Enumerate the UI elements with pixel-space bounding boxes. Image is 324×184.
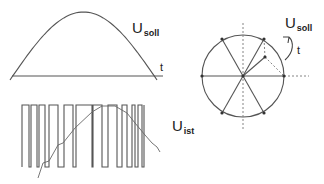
time-axis-label: t — [160, 62, 163, 73]
rotation-arrow-icon — [283, 37, 292, 60]
ist-plot — [22, 105, 160, 178]
label-sub: ist — [184, 126, 195, 136]
diagram-canvas — [0, 0, 324, 184]
label-main: U — [172, 117, 183, 134]
soll-label-top: Usoll — [132, 20, 159, 38]
soll-label-phasor: Usoll — [285, 15, 312, 33]
ist-label: Uist — [172, 118, 194, 136]
space-vector-diagram — [200, 23, 309, 129]
label-main: U — [285, 14, 296, 31]
label-main: U — [132, 19, 143, 36]
label-sub: soll — [144, 28, 160, 38]
rotation-time-label: t — [297, 45, 300, 56]
label-sub: soll — [297, 23, 313, 33]
pwm-waveform — [22, 105, 144, 167]
